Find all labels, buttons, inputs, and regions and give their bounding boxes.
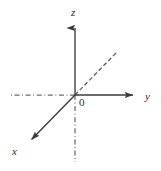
x-axis-label: x: [12, 146, 17, 157]
z-axis-label: z: [71, 7, 75, 18]
y-axis-label: y: [145, 91, 150, 102]
axes-drawing: [0, 0, 161, 171]
x-axis-negative-dashed-line: [75, 52, 117, 95]
coordinate-axes-figure: z y x 0: [0, 0, 161, 171]
x-axis-line: [32, 95, 76, 140]
origin-label: 0: [79, 97, 85, 108]
